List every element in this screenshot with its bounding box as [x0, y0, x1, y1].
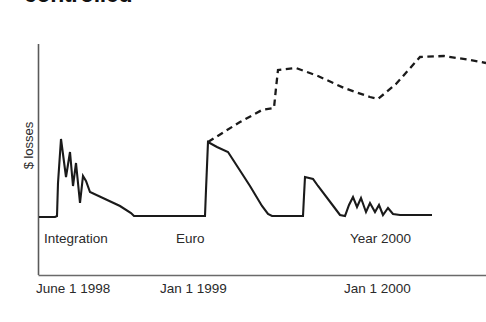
x-tick-label-jan-1-1999: Jan 1 1999 [160, 282, 227, 296]
annotation-integration: Integration [44, 232, 108, 246]
annotation-euro: Euro [176, 232, 205, 246]
plot-area [0, 0, 486, 322]
x-tick-label-jan-1-2000: Jan 1 2000 [344, 282, 411, 296]
y-axis-label: $ losses [21, 106, 36, 186]
series-projected-losses [208, 56, 486, 142]
annotation-year-2000: Year 2000 [350, 232, 411, 246]
x-tick-label-june-1-1998: June 1 1998 [36, 282, 110, 296]
series-actual-losses [39, 139, 432, 217]
chart-figure: controlled $ losses Integration Euro Yea… [0, 0, 486, 322]
